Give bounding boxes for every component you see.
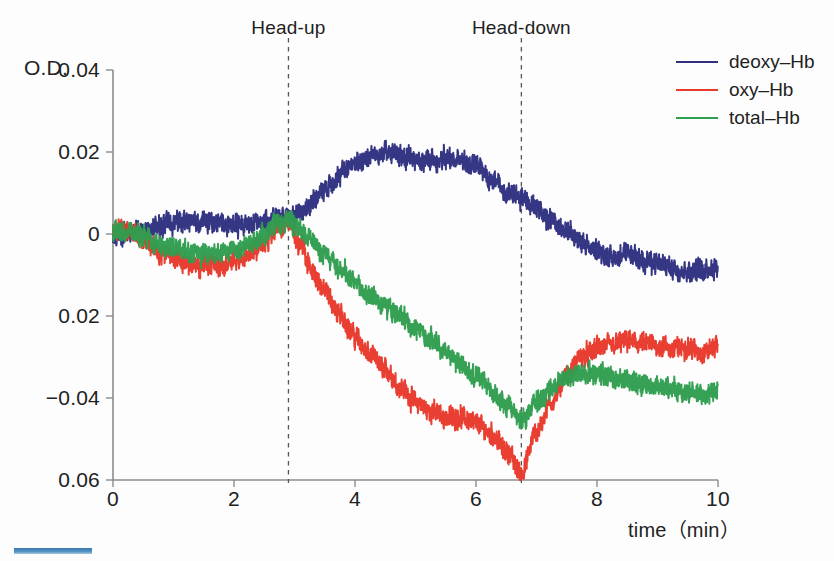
legend-swatch-total	[676, 117, 718, 119]
legend-swatch-deoxy	[676, 61, 718, 63]
legend-label-deoxy: deoxy–Hb	[729, 51, 815, 73]
x-axis-title: time（min）	[628, 514, 740, 543]
legend-label-total: total–Hb	[729, 107, 800, 129]
legend-swatch-oxy	[676, 89, 718, 91]
legend-item-total: total–Hb	[676, 104, 834, 132]
legend: deoxy–Hboxy–Hbtotal–Hb	[676, 48, 834, 132]
chart-figure: O.D. 0.040.0200.02−0.040.060246810 Head-…	[0, 0, 834, 561]
legend-item-deoxy: deoxy–Hb	[676, 48, 834, 76]
scan-edge-artifact	[14, 548, 92, 554]
legend-item-oxy: oxy–Hb	[676, 76, 834, 104]
legend-label-oxy: oxy–Hb	[729, 79, 793, 101]
